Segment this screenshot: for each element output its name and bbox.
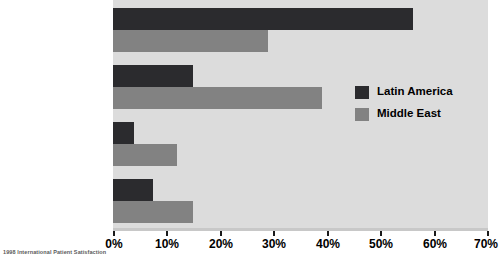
- x-axis-tick-label: 30%: [250, 237, 298, 251]
- bar-middle-east: [113, 30, 268, 52]
- bar-middle-east: [113, 201, 193, 223]
- x-axis-tick-label: 50%: [357, 237, 405, 251]
- x-axis-tick: [434, 231, 436, 236]
- bar-latin-america: [113, 65, 193, 87]
- x-axis-tick: [327, 231, 329, 236]
- legend-label: Latin America: [377, 85, 453, 97]
- x-axis-tick-label: 10%: [143, 237, 191, 251]
- x-axis-tick: [487, 231, 489, 236]
- x-axis-tick: [166, 231, 168, 236]
- plot-area: For as long as I can remember Within pas…: [113, 0, 488, 228]
- bar-latin-america: [113, 122, 134, 144]
- bar-latin-america: [113, 179, 153, 201]
- x-axis-tick-label: 40%: [304, 237, 352, 251]
- bar-latin-america: [113, 8, 413, 30]
- x-axis-line: [113, 228, 488, 231]
- x-axis-tick: [220, 231, 222, 236]
- x-axis-tick: [273, 231, 275, 236]
- x-axis-tick-label: 60%: [411, 237, 459, 251]
- x-axis-tick: [380, 231, 382, 236]
- legend-swatch-icon: [355, 108, 369, 121]
- x-axis-tick: [113, 231, 115, 236]
- x-axis-tick-label: 70%: [462, 237, 503, 251]
- source-note: 1998 International Patient Satisfaction: [3, 249, 106, 255]
- legend-label: Middle East: [377, 107, 441, 119]
- bar-middle-east: [113, 144, 177, 166]
- legend-swatch-icon: [355, 86, 369, 99]
- x-axis-tick-label: 20%: [197, 237, 245, 251]
- bar-middle-east: [113, 87, 322, 109]
